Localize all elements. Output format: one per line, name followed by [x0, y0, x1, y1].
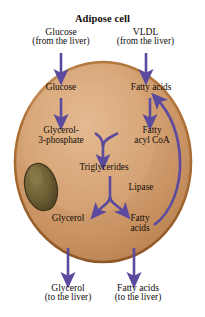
- label-fatty-acids-top: Fatty acids: [112, 83, 190, 93]
- input-vldl-source: (from the liver): [86, 37, 205, 47]
- acylcoa-line1: Fatty: [142, 125, 161, 135]
- label-glucose: Glucose: [21, 83, 101, 93]
- arrow-layer: [0, 0, 205, 317]
- arrow-fattyacid-recycle: [154, 99, 180, 225]
- g3p-line2: 3-phosphate: [11, 136, 111, 146]
- label-triglycerides: Triglycerides: [56, 163, 152, 173]
- label-fatty-acids-bottom: Fatty acids: [111, 214, 169, 234]
- label-glycerol-3-phosphate: Glycerol- 3-phosphate: [11, 126, 111, 146]
- input-vldl: VLDL (from the liver): [86, 27, 205, 47]
- figure-title: Adipose cell: [0, 13, 205, 24]
- fa-bottom-line2: acids: [111, 224, 169, 234]
- figure-adipose-cell: Adipose cell Glucose (from the liver) VL…: [0, 0, 205, 317]
- g3p-line1: Glycerol-: [43, 125, 79, 135]
- fa-bottom-line1: Fatty: [130, 213, 149, 223]
- label-lipase: Lipase: [113, 183, 169, 193]
- label-glycerol: Glycerol: [30, 214, 106, 224]
- arrow-split-to-glycerol: [96, 197, 110, 213]
- output-fatty-acids: Fatty acids (to the liver): [76, 283, 200, 303]
- output-fatty-acids-destination: (to the liver): [76, 293, 200, 303]
- label-fatty-acyl-coa: Fatty acyl CoA: [114, 126, 190, 146]
- acylcoa-line2: acyl CoA: [114, 136, 190, 146]
- arrow-split-to-fattyacids: [110, 197, 125, 213]
